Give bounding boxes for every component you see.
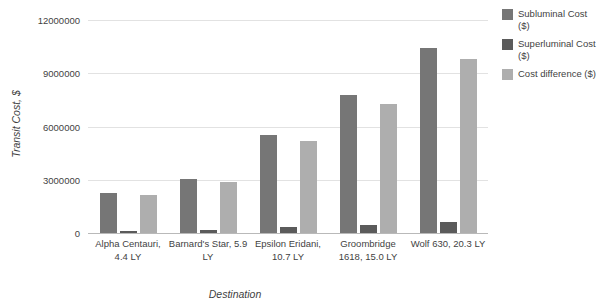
- bar: [100, 193, 117, 233]
- bar: [220, 182, 237, 233]
- bar-group: Barnard's Star, 5.9 LY: [168, 20, 248, 233]
- legend-item[interactable]: Subluminal Cost ($): [502, 8, 597, 32]
- legend-swatch-icon: [502, 9, 513, 20]
- bar-chart: Transit Cost, $ 030000006000000900000012…: [0, 0, 599, 307]
- legend-label: Superluminal Cost ($): [518, 38, 597, 62]
- x-axis-tick-label: Epsilon Eridani, 10.7 LY: [248, 237, 328, 263]
- y-axis-tick-label: 9000000: [10, 68, 80, 79]
- x-axis-line: [88, 233, 488, 234]
- bar: [420, 48, 437, 233]
- legend-swatch-icon: [502, 39, 513, 50]
- x-axis-tick-label: Wolf 630, 20.3 LY: [408, 237, 488, 250]
- bar-group: Epsilon Eridani, 10.7 LY: [248, 20, 328, 233]
- y-axis-tick-label: 0: [10, 228, 80, 239]
- bar: [200, 230, 217, 233]
- bar: [460, 59, 477, 233]
- bar: [140, 195, 157, 233]
- bar: [260, 135, 277, 233]
- bar-group: Alpha Centauri, 4.4 LY: [88, 20, 168, 233]
- legend-item[interactable]: Superluminal Cost ($): [502, 38, 597, 62]
- chart-legend: Subluminal Cost ($)Superluminal Cost ($)…: [502, 8, 597, 86]
- plot-area: Alpha Centauri, 4.4 LYBarnard's Star, 5.…: [88, 20, 488, 233]
- bar: [380, 104, 397, 233]
- x-axis-tick-label: Alpha Centauri, 4.4 LY: [88, 237, 168, 263]
- bar-group: Wolf 630, 20.3 LY: [408, 20, 488, 233]
- x-axis-title: Destination: [0, 288, 470, 300]
- legend-label: Cost difference ($): [518, 68, 596, 80]
- bar: [280, 227, 297, 233]
- x-axis-tick-label: Barnard's Star, 5.9 LY: [168, 237, 248, 263]
- bar: [340, 95, 357, 233]
- bar-group: Groombridge 1618, 15.0 LY: [328, 20, 408, 233]
- bar: [180, 179, 197, 233]
- bar: [440, 222, 457, 233]
- bar: [360, 225, 377, 233]
- y-axis-tick-label: 6000000: [10, 121, 80, 132]
- y-axis-tick-label: 3000000: [10, 174, 80, 185]
- legend-label: Subluminal Cost ($): [518, 8, 597, 32]
- bar: [120, 231, 137, 233]
- bar: [300, 141, 317, 233]
- legend-swatch-icon: [502, 69, 513, 80]
- x-axis-tick-label: Groombridge 1618, 15.0 LY: [328, 237, 408, 263]
- y-axis-tick-label: 12000000: [10, 15, 80, 26]
- legend-item[interactable]: Cost difference ($): [502, 68, 597, 80]
